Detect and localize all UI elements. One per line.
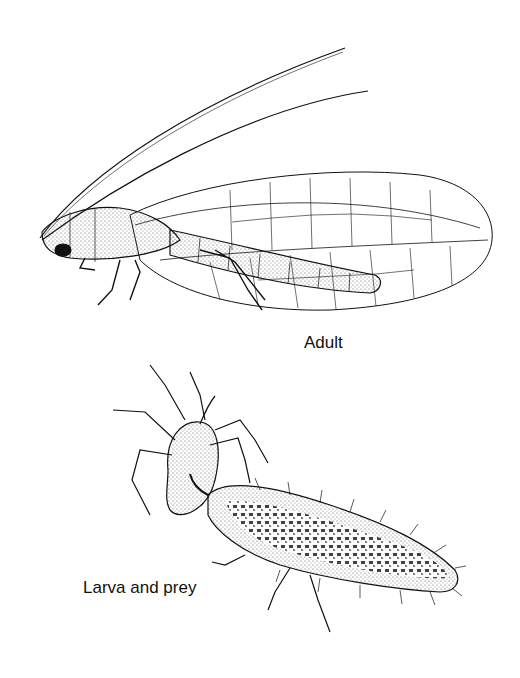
larva-and-prey-label: Larva and prey <box>83 578 196 598</box>
line-drawing <box>0 0 520 678</box>
eye <box>55 244 71 256</box>
abdomen <box>170 230 380 293</box>
lacewing-illustration: Adult Larva and prey <box>0 0 520 678</box>
adult-label: Adult <box>304 333 343 353</box>
larva <box>190 474 466 632</box>
aphid-antennae <box>150 365 205 420</box>
adult-lacewing <box>40 48 492 310</box>
